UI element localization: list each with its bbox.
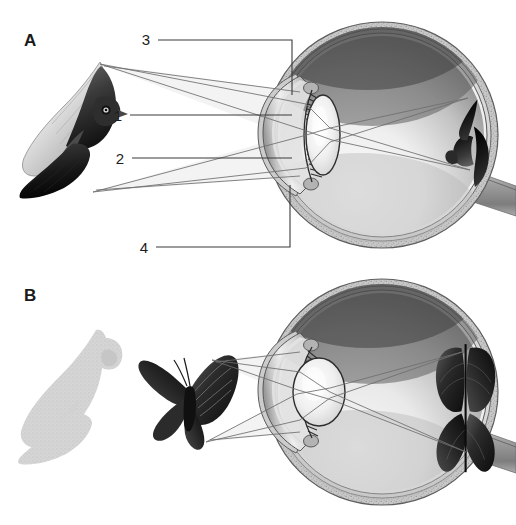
panel-letter-b: B — [24, 286, 36, 305]
callout-number-1: 1 — [114, 107, 122, 124]
callout-number-4: 4 — [140, 239, 148, 256]
figure-root: 3 1 2 4 A — [0, 0, 516, 525]
callout-number-3: 3 — [142, 31, 150, 48]
panel-letter-a: A — [24, 31, 36, 50]
callout-number-2: 2 — [116, 150, 124, 167]
lens-highlight — [302, 367, 326, 401]
anatomy-figure: 3 1 2 4 A — [0, 0, 516, 525]
